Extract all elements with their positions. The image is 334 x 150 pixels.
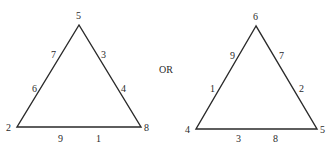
triangle-right: 6 4 5 9 1 7 2 3 8 bbox=[185, 11, 325, 144]
right-side-number-1: 3 bbox=[101, 49, 106, 60]
vertex-bottom-left-label: 4 bbox=[185, 124, 190, 135]
vertex-bottom-right-label: 8 bbox=[144, 122, 149, 133]
triangle-right-outline bbox=[196, 26, 317, 129]
left-side-number-1: 9 bbox=[230, 50, 235, 61]
vertex-top-label: 5 bbox=[76, 10, 81, 21]
vertex-bottom-right-label: 5 bbox=[320, 124, 325, 135]
vertex-bottom-left-label: 2 bbox=[6, 122, 11, 133]
left-side-number-1: 7 bbox=[51, 49, 56, 60]
right-side-number-1: 7 bbox=[279, 50, 284, 61]
triangle-left: 5 2 8 7 6 3 4 9 1 bbox=[6, 10, 149, 144]
bottom-side-number-2: 1 bbox=[96, 133, 101, 144]
magic-triangles-diagram: 5 2 8 7 6 3 4 9 1 OR 6 4 5 9 1 7 2 3 8 bbox=[0, 0, 334, 150]
vertex-top-label: 6 bbox=[253, 11, 258, 22]
left-side-number-2: 1 bbox=[210, 83, 215, 94]
or-separator: OR bbox=[159, 64, 173, 75]
right-side-number-2: 4 bbox=[121, 83, 126, 94]
triangle-left-outline bbox=[17, 25, 141, 127]
bottom-side-number-2: 8 bbox=[273, 133, 278, 144]
bottom-side-number-1: 3 bbox=[236, 133, 241, 144]
right-side-number-2: 2 bbox=[299, 83, 304, 94]
left-side-number-2: 6 bbox=[32, 83, 37, 94]
bottom-side-number-1: 9 bbox=[58, 133, 63, 144]
